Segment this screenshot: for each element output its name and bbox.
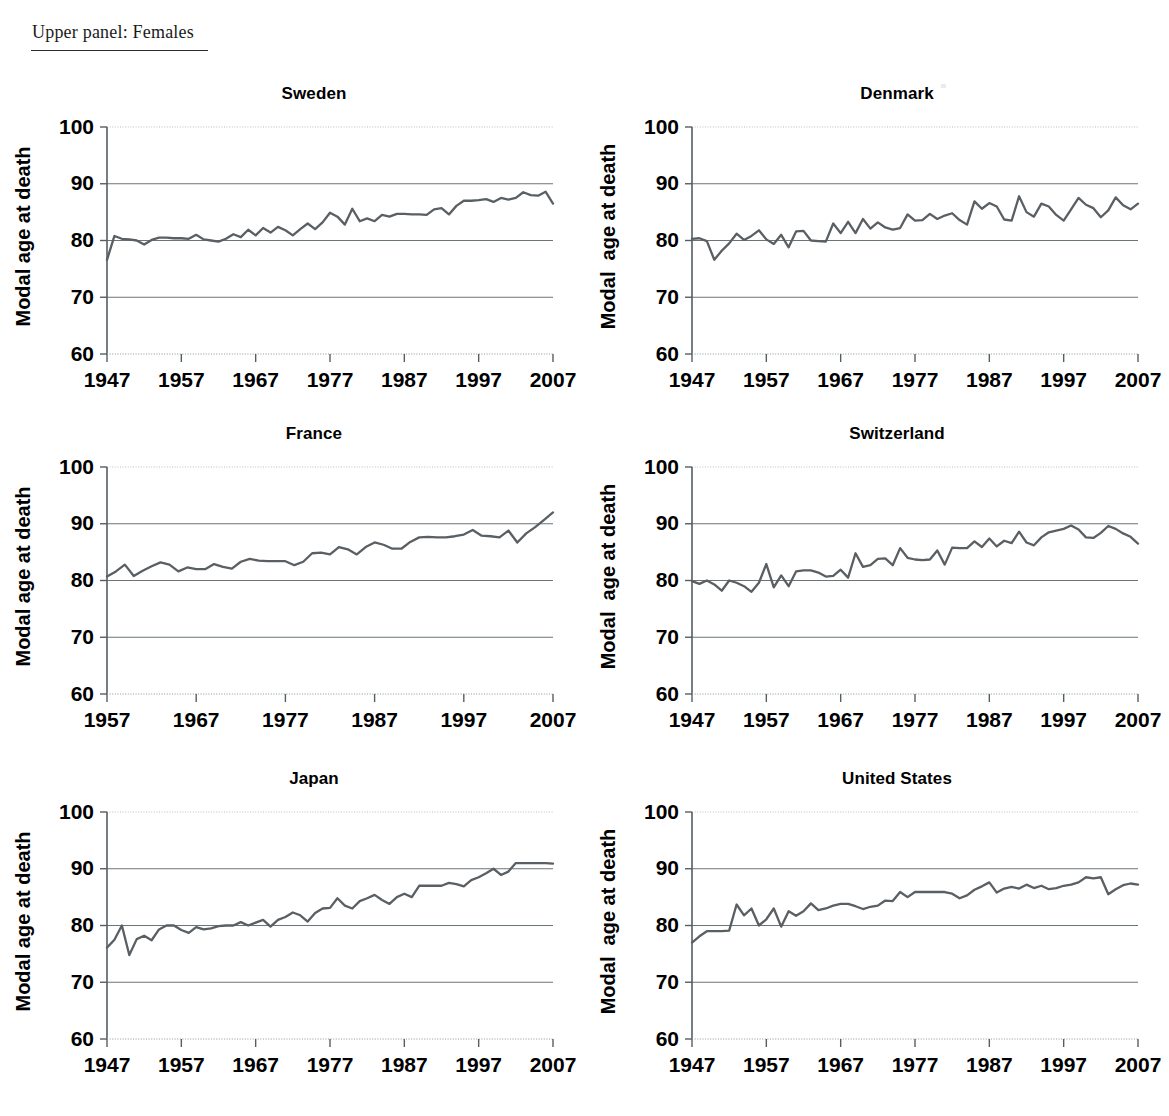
y-tick-label: 60 bbox=[71, 682, 94, 705]
y-axis-label: Modal age at death bbox=[12, 831, 34, 1011]
x-tick-label: 1997 bbox=[1040, 1053, 1087, 1076]
x-tick-label: 1987 bbox=[381, 368, 428, 391]
series-line bbox=[692, 877, 1138, 942]
x-tick-label: 1987 bbox=[966, 368, 1013, 391]
y-tick-label: 70 bbox=[71, 970, 94, 993]
scan-artifact-speck bbox=[941, 84, 946, 88]
x-tick-label: 1997 bbox=[455, 1053, 502, 1076]
y-tick-label: 90 bbox=[656, 511, 679, 534]
y-axis-label: Modal age at death bbox=[597, 829, 619, 1015]
x-tick-label: 1967 bbox=[232, 368, 279, 391]
y-tick-label: 60 bbox=[656, 1027, 679, 1050]
x-tick-label: 1967 bbox=[817, 1053, 864, 1076]
y-tick-label: 100 bbox=[59, 800, 94, 823]
x-tick-label: 1957 bbox=[158, 368, 205, 391]
chart-panel-switzerland: Switzerland 6070809010019471957196719771… bbox=[585, 418, 1169, 763]
x-tick-label: 1967 bbox=[232, 1053, 279, 1076]
y-axis-label: Modal age at death bbox=[12, 146, 34, 326]
x-tick-label: 1967 bbox=[173, 708, 220, 731]
series-line bbox=[107, 512, 553, 576]
chart-panel-denmark: Denmark 60708090100194719571967197719871… bbox=[585, 78, 1169, 423]
series-line bbox=[692, 196, 1138, 260]
y-tick-label: 90 bbox=[656, 856, 679, 879]
x-tick-label: 2007 bbox=[530, 1053, 577, 1076]
y-tick-label: 80 bbox=[656, 228, 679, 251]
x-tick-label: 1987 bbox=[381, 1053, 428, 1076]
x-tick-label: 1977 bbox=[892, 1053, 939, 1076]
x-tick-label: 1947 bbox=[669, 1053, 716, 1076]
x-tick-label: 1957 bbox=[84, 708, 131, 731]
x-tick-label: 2007 bbox=[530, 708, 577, 731]
x-tick-label: 1997 bbox=[455, 368, 502, 391]
x-tick-label: 1977 bbox=[307, 368, 354, 391]
x-tick-label: 1967 bbox=[817, 708, 864, 731]
y-tick-label: 60 bbox=[656, 682, 679, 705]
panel-heading-rule bbox=[31, 50, 208, 51]
y-tick-label: 70 bbox=[71, 285, 94, 308]
x-tick-label: 1957 bbox=[158, 1053, 205, 1076]
x-tick-label: 2007 bbox=[530, 368, 577, 391]
x-tick-label: 1987 bbox=[966, 1053, 1013, 1076]
y-tick-label: 100 bbox=[644, 800, 679, 823]
y-tick-label: 70 bbox=[656, 285, 679, 308]
panel-heading: Upper panel: Females bbox=[32, 22, 194, 43]
chart-svg-france: 60708090100195719671977198719972007Modal… bbox=[0, 418, 584, 763]
x-tick-label: 1977 bbox=[892, 708, 939, 731]
x-tick-label: 2007 bbox=[1115, 368, 1162, 391]
y-tick-label: 80 bbox=[71, 568, 94, 591]
y-tick-label: 100 bbox=[59, 115, 94, 138]
x-tick-label: 1947 bbox=[84, 368, 131, 391]
y-tick-label: 70 bbox=[71, 625, 94, 648]
y-tick-label: 80 bbox=[71, 913, 94, 936]
chart-panel-france: France 607080901001957196719771987199720… bbox=[0, 418, 584, 763]
x-tick-label: 1997 bbox=[440, 708, 487, 731]
chart-panel-japan: Japan 6070809010019471957196719771987199… bbox=[0, 763, 584, 1108]
chart-svg-switzerland: 607080901001947195719671977198719972007M… bbox=[585, 418, 1169, 763]
y-tick-label: 60 bbox=[71, 342, 94, 365]
x-tick-label: 1957 bbox=[743, 368, 790, 391]
chart-svg-japan: 607080901001947195719671977198719972007M… bbox=[0, 763, 584, 1108]
y-tick-label: 60 bbox=[656, 342, 679, 365]
x-tick-label: 1977 bbox=[262, 708, 309, 731]
y-tick-label: 100 bbox=[59, 455, 94, 478]
x-tick-label: 1997 bbox=[1040, 368, 1087, 391]
y-axis-label: Modal age at death bbox=[12, 486, 34, 666]
y-tick-label: 70 bbox=[656, 625, 679, 648]
x-tick-label: 1947 bbox=[669, 368, 716, 391]
y-tick-label: 80 bbox=[656, 913, 679, 936]
x-tick-label: 1957 bbox=[743, 708, 790, 731]
x-tick-label: 1957 bbox=[743, 1053, 790, 1076]
x-tick-label: 1977 bbox=[307, 1053, 354, 1076]
chart-svg-denmark: 607080901001947195719671977198719972007M… bbox=[585, 78, 1169, 423]
y-tick-label: 80 bbox=[656, 568, 679, 591]
y-axis-label: Modal age at death bbox=[597, 144, 619, 330]
chart-panel-united-states: United States 60708090100194719571967197… bbox=[585, 763, 1169, 1108]
x-tick-label: 1947 bbox=[84, 1053, 131, 1076]
y-tick-label: 100 bbox=[644, 115, 679, 138]
y-tick-label: 100 bbox=[644, 455, 679, 478]
x-tick-label: 2007 bbox=[1115, 708, 1162, 731]
chart-grid: Sweden 607080901001947195719671977198719… bbox=[0, 78, 1169, 1113]
y-tick-label: 90 bbox=[71, 856, 94, 879]
y-tick-label: 70 bbox=[656, 970, 679, 993]
y-tick-label: 80 bbox=[71, 228, 94, 251]
series-line bbox=[107, 863, 553, 955]
y-tick-label: 90 bbox=[656, 171, 679, 194]
series-line bbox=[692, 525, 1138, 591]
x-tick-label: 1967 bbox=[817, 368, 864, 391]
x-tick-label: 1947 bbox=[669, 708, 716, 731]
y-tick-label: 90 bbox=[71, 171, 94, 194]
chart-svg-united-states: 607080901001947195719671977198719972007M… bbox=[585, 763, 1169, 1108]
y-tick-label: 90 bbox=[71, 511, 94, 534]
series-line bbox=[107, 192, 553, 260]
x-tick-label: 1987 bbox=[966, 708, 1013, 731]
x-tick-label: 1987 bbox=[351, 708, 398, 731]
y-axis-label: Modal age at death bbox=[597, 484, 619, 670]
chart-panel-sweden: Sweden 607080901001947195719671977198719… bbox=[0, 78, 584, 423]
chart-svg-sweden: 607080901001947195719671977198719972007M… bbox=[0, 78, 584, 423]
y-tick-label: 60 bbox=[71, 1027, 94, 1050]
x-tick-label: 2007 bbox=[1115, 1053, 1162, 1076]
x-tick-label: 1977 bbox=[892, 368, 939, 391]
x-tick-label: 1997 bbox=[1040, 708, 1087, 731]
